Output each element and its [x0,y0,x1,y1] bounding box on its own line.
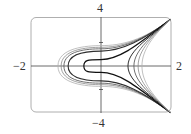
contour-plot [0,0,191,134]
x-max-label: 2 [176,60,182,72]
x-min-label: −2 [13,60,26,72]
y-min-label: −4 [92,117,105,129]
y-max-label: 4 [97,2,103,14]
